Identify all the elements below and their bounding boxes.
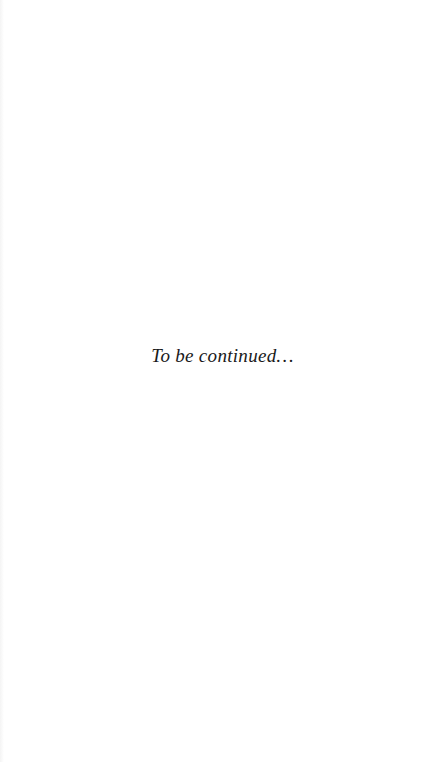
- page-edge-shadow: [0, 0, 4, 762]
- book-page: To be continued…: [0, 0, 445, 762]
- to-be-continued-text: To be continued…: [0, 345, 445, 367]
